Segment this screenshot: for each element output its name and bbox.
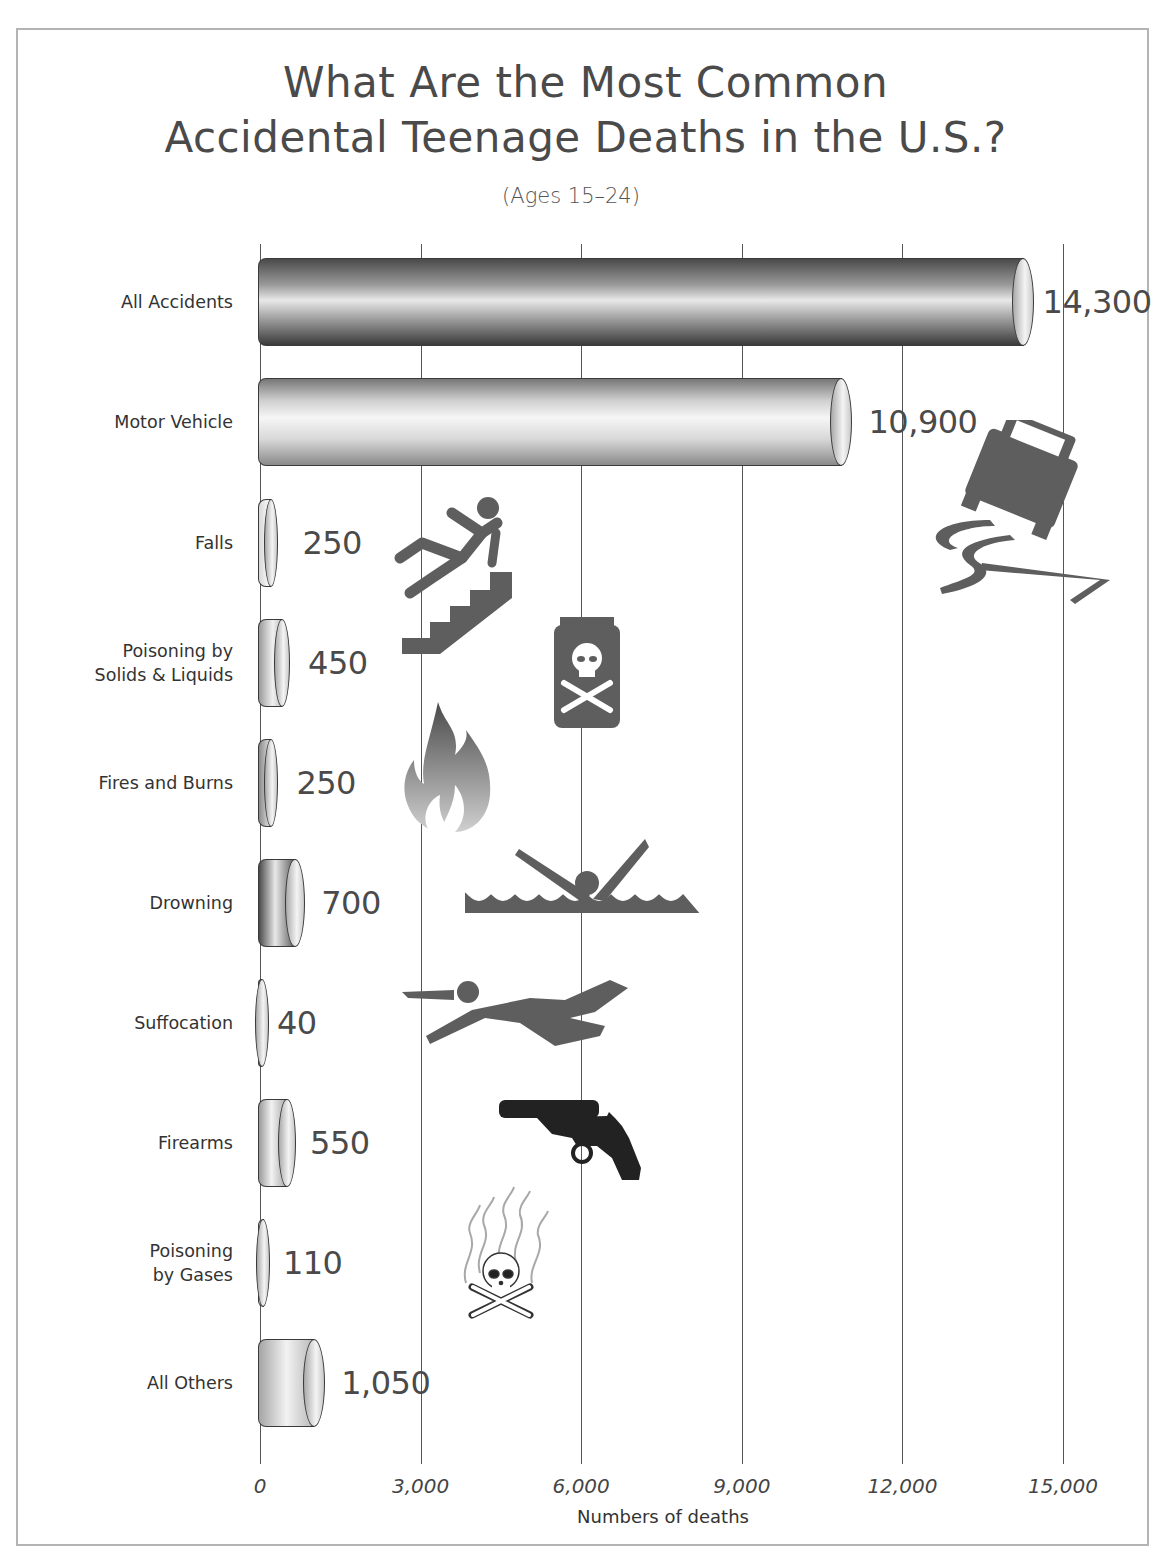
category-label: All Accidents bbox=[121, 290, 233, 314]
x-tick-label: 6,000 bbox=[553, 1474, 610, 1498]
bar bbox=[258, 378, 842, 466]
bar-end-cap bbox=[264, 739, 278, 827]
skidding-car-icon bbox=[920, 420, 1115, 610]
chart-title-line1: What Are the Most Common bbox=[0, 58, 1171, 107]
bar bbox=[258, 979, 262, 1067]
category-label: Suffocation bbox=[134, 1011, 233, 1035]
category-label: Poisoning by Gases bbox=[150, 1239, 233, 1287]
bar-end-cap bbox=[830, 378, 852, 466]
bar-end-cap bbox=[278, 1099, 295, 1187]
value-label: 1,050 bbox=[341, 1364, 430, 1402]
chart-title-line2: Accidental Teenage Deaths in the U.S.? bbox=[0, 113, 1171, 162]
bar-end-cap bbox=[255, 979, 269, 1067]
category-label: Poisoning by Solids & Liquids bbox=[95, 639, 233, 687]
bar bbox=[258, 258, 1024, 346]
category-label: Firearms bbox=[158, 1131, 233, 1155]
bar bbox=[258, 1219, 264, 1307]
x-tick-label: 3,000 bbox=[392, 1474, 449, 1498]
value-label: 110 bbox=[283, 1244, 343, 1282]
category-label: Drowning bbox=[150, 891, 233, 915]
drowning-person-icon bbox=[465, 835, 700, 915]
category-label: Motor Vehicle bbox=[114, 410, 233, 434]
bar-end-cap bbox=[303, 1339, 325, 1427]
x-tick-label: 12,000 bbox=[867, 1474, 937, 1498]
poison-jar-icon bbox=[552, 615, 622, 730]
chart-subtitle: (Ages 15–24) bbox=[0, 184, 1142, 208]
skull-gas-icon bbox=[458, 1183, 558, 1328]
bar bbox=[258, 499, 271, 587]
value-label: 700 bbox=[321, 884, 381, 922]
bar bbox=[258, 619, 282, 707]
bar-end-cap bbox=[274, 619, 290, 707]
bar bbox=[258, 739, 271, 827]
x-tick-label: 9,000 bbox=[713, 1474, 770, 1498]
value-label: 450 bbox=[308, 644, 368, 682]
value-label: 40 bbox=[277, 1004, 317, 1042]
category-label: Fires and Burns bbox=[98, 771, 233, 795]
value-label: 550 bbox=[310, 1124, 370, 1162]
x-axis-label: Numbers of deaths bbox=[0, 1506, 1171, 1527]
x-tick-label: 15,000 bbox=[1028, 1474, 1098, 1498]
bar-end-cap bbox=[264, 499, 278, 587]
suffocation-person-icon bbox=[400, 978, 635, 1053]
value-label: 250 bbox=[296, 764, 356, 802]
bar bbox=[258, 1099, 287, 1187]
bar-end-cap bbox=[285, 859, 304, 947]
revolver-icon bbox=[497, 1098, 642, 1183]
bar bbox=[258, 859, 295, 947]
value-label: 14,300 bbox=[1043, 283, 1152, 321]
x-tick-label: 0 bbox=[254, 1474, 267, 1498]
category-label: All Others bbox=[147, 1371, 233, 1395]
bar bbox=[258, 1339, 314, 1427]
bar-end-cap bbox=[1012, 258, 1034, 346]
category-label: Falls bbox=[195, 531, 233, 555]
flame-icon bbox=[400, 700, 500, 835]
value-label: 250 bbox=[302, 524, 362, 562]
falling-person-stairs-icon bbox=[392, 488, 517, 658]
